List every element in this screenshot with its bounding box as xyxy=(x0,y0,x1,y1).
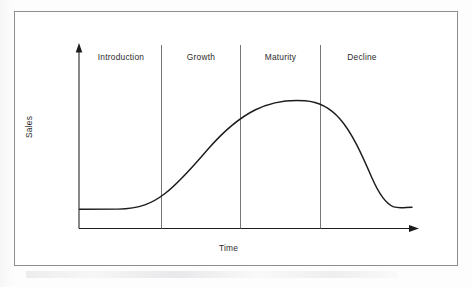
phase-label-growth: Growth xyxy=(162,52,240,62)
sales-curve xyxy=(80,100,413,209)
x-axis xyxy=(79,225,419,232)
y-axis xyxy=(76,43,83,229)
phase-label-maturity: Maturity xyxy=(241,52,320,62)
phase-divider-lines xyxy=(162,45,321,229)
phase-label-decline: Decline xyxy=(321,52,403,62)
x-axis-title: Time xyxy=(219,243,238,253)
y-axis-title: Sales xyxy=(24,116,34,138)
phase-label-introduction: Introduction xyxy=(82,52,160,62)
figure-root: Introduction Growth Maturity Decline Sal… xyxy=(0,0,472,287)
